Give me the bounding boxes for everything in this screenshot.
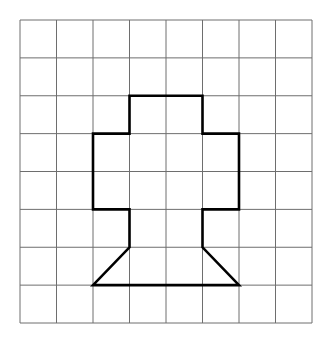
grid-lines: [20, 20, 312, 323]
grid-diagram: [0, 0, 325, 338]
